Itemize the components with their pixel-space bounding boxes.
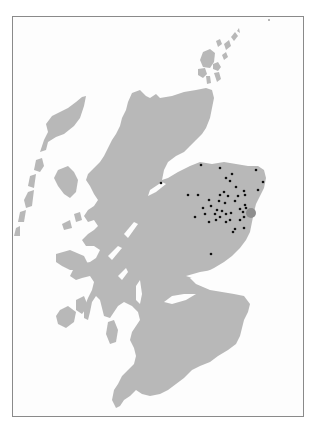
site-point — [237, 195, 240, 198]
site-point — [243, 216, 246, 219]
site-point — [234, 200, 237, 203]
site-point — [210, 253, 213, 256]
site-point — [232, 231, 235, 234]
site-point — [223, 191, 226, 194]
site-point — [235, 186, 238, 189]
site-point — [234, 228, 237, 231]
scotland-mainland — [70, 88, 266, 408]
site-point — [208, 221, 211, 224]
site-point — [257, 189, 260, 192]
site-point — [243, 190, 246, 193]
site-point — [187, 194, 190, 197]
site-point — [194, 216, 197, 219]
site-point — [216, 209, 219, 212]
site-point — [239, 219, 242, 222]
site-point — [244, 204, 247, 207]
site-point — [197, 194, 200, 197]
city-hub-marker — [246, 208, 256, 218]
site-point — [244, 194, 247, 197]
site-point — [225, 221, 228, 224]
site-point — [200, 164, 203, 167]
site-point — [219, 194, 222, 197]
site-point — [231, 173, 234, 176]
site-point — [221, 210, 224, 213]
site-point — [210, 205, 213, 208]
site-point — [230, 212, 233, 215]
site-point — [219, 167, 222, 170]
site-point — [160, 182, 163, 185]
site-point — [215, 219, 218, 222]
northern-isles — [198, 19, 270, 84]
site-point — [229, 219, 232, 222]
site-point — [227, 195, 230, 198]
site-point — [255, 169, 258, 172]
scotland-map — [0, 0, 317, 431]
site-point — [245, 207, 248, 210]
site-point — [225, 177, 228, 180]
site-point — [229, 180, 232, 183]
site-point — [242, 211, 245, 214]
site-point — [214, 213, 217, 216]
site-point — [224, 202, 227, 205]
site-point — [208, 199, 211, 202]
site-point — [202, 207, 205, 210]
site-point — [225, 213, 228, 216]
site-point — [219, 216, 222, 219]
site-point — [262, 181, 265, 184]
site-point — [204, 213, 207, 216]
site-point — [243, 227, 246, 230]
site-point — [239, 208, 242, 211]
site-point — [218, 200, 221, 203]
